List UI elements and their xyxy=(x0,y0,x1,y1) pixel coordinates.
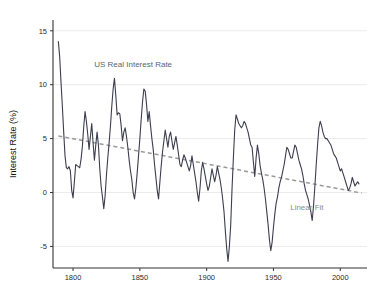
x-tick-label: 2000 xyxy=(332,273,349,282)
y-tick-label: 5 xyxy=(43,134,47,143)
x-tick-label: 1950 xyxy=(265,273,282,282)
y-tick-label: 10 xyxy=(39,80,47,89)
series-annotation-label: Linear Fit xyxy=(290,203,324,212)
series-annotation-label: US Real Interest Rate xyxy=(94,60,172,69)
line-chart: -5051015 18001850190019502000 Interest R… xyxy=(0,0,384,301)
x-tick-label: 1900 xyxy=(198,273,215,282)
x-tick-label: 1850 xyxy=(132,273,149,282)
chart-figure: -5051015 18001850190019502000 Interest R… xyxy=(0,0,384,301)
chart-background xyxy=(0,0,384,301)
y-axis-title: Interest Rate (%) xyxy=(8,110,18,178)
y-tick-label: 0 xyxy=(43,188,47,197)
y-tick-label: -5 xyxy=(40,242,47,251)
y-tick-label: 15 xyxy=(39,27,47,36)
x-tick-label: 1800 xyxy=(65,273,82,282)
